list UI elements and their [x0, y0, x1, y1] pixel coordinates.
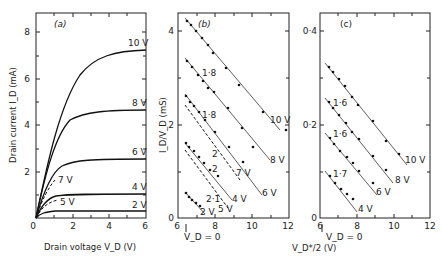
c-label-10v: 10 V [405, 155, 426, 165]
b-label-6v: 6 V [262, 188, 278, 198]
b-xtick-10: 10 [246, 221, 258, 231]
a-curve-6v [36, 159, 146, 218]
a-curve-8v [36, 110, 146, 218]
a-xtick-6: 6 [142, 221, 148, 231]
b-label-5v: 5 V [218, 204, 234, 214]
b-ytick-4: 4 [168, 26, 174, 36]
b-xtick-12: 12 [282, 221, 293, 231]
b-panel-label: (b) [198, 19, 211, 29]
b-slope-7v: 2 [212, 164, 218, 174]
a-ylabel: Drain current I_D (mA) [8, 67, 18, 163]
panel-b: 4 2 0 6 8 10 12 (b) I_D/V_D (mS) V_D = 0… [158, 13, 294, 242]
a-xtick-4: 4 [106, 221, 112, 231]
a-label-2v: 2 V [132, 200, 148, 210]
b-line-6v [185, 94, 262, 195]
b-label-2v: 2 V [200, 207, 216, 217]
b-label-10v: 10 V [270, 115, 291, 125]
c-xtick-8: 8 [354, 221, 360, 231]
a-xtick-0: 0 [30, 221, 36, 231]
c-slope-4v: 1·7 [333, 169, 347, 179]
a-label-5v: 5 V [60, 197, 76, 207]
c-line-6v [325, 133, 377, 195]
a-label-7v: 7 V [58, 175, 74, 185]
c-panel-label: (c) [340, 19, 352, 29]
panel-c-frame [320, 13, 430, 218]
a-label-6v: 6 V [132, 147, 148, 157]
c-vd0-label: V_D = 0 [326, 232, 363, 242]
b-label-4v: 4 V [232, 194, 248, 204]
a-ytick-6: 6 [24, 74, 30, 84]
b-slope-6v: 2 [212, 149, 218, 159]
b-slope-10v: 1·8 [202, 68, 217, 78]
b-xtick-6: 6 [174, 221, 180, 231]
a-ytick-2: 2 [24, 167, 30, 177]
c-ytick-02: 0·2 [303, 120, 317, 130]
a-xtick-2: 2 [70, 221, 76, 231]
b-ylabel: I_D/V_D (mS) [158, 97, 168, 153]
c-slope-6v: 1·6 [333, 129, 348, 139]
b-slope-8v: 1·8 [202, 110, 217, 120]
figure: 8 6 4 2 0 2 4 6 (a) Drain current I_D (m… [0, 0, 442, 264]
b-line-4v [185, 143, 232, 200]
c-label-8v: 8 V [395, 175, 411, 185]
b-label-7v: 7 V [236, 168, 252, 178]
a-ytick-4: 4 [24, 120, 30, 130]
c-label-4v: 4 V [358, 204, 374, 214]
a-xlabel: Drain voltage V_D (V) [44, 242, 136, 252]
a-label-10v: 10 V [128, 38, 149, 48]
a-curve-4v [36, 194, 146, 218]
b-label-8v: 8 V [270, 155, 286, 165]
panel-c: 0·4 0·2 0 6 8 10 12 (c) V_D = 0 V_D*/2 (… [292, 13, 436, 253]
a-curve-10v [36, 50, 146, 218]
a-label-4v: 4 V [132, 182, 148, 192]
panel-a: 8 6 4 2 0 2 4 6 (a) Drain current I_D (m… [8, 13, 149, 252]
c-xlabel: V_D*/2 (V) [292, 243, 336, 253]
a-ytick-8: 8 [24, 27, 30, 37]
a-label-8v: 8 V [132, 98, 148, 108]
c-xtick-10: 10 [388, 221, 400, 231]
c-ytick-04: 0·4 [303, 26, 318, 36]
b-slope-4v: 2·1 [206, 194, 220, 204]
b-ytick-2: 2 [168, 120, 174, 130]
c-label-6v: 6 V [376, 187, 392, 197]
c-xtick-12: 12 [424, 221, 435, 231]
c-slope-8v: 1·6 [333, 98, 348, 108]
b-vd0-label: V_D = 0 [184, 232, 221, 242]
a-panel-label: (a) [54, 19, 67, 29]
b-xtick-8: 8 [212, 221, 218, 231]
